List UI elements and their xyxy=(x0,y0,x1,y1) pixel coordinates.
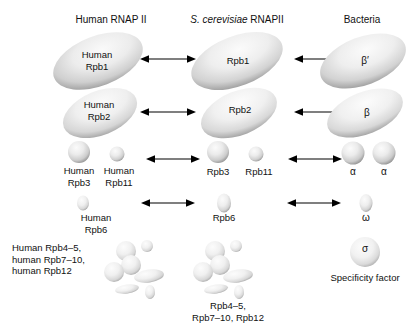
shape-human-rpb11 xyxy=(108,145,126,163)
arrow-human-yeast-rpb3 xyxy=(146,152,200,170)
shape-label-human-rpb3: Human Rpb3 xyxy=(64,165,95,188)
shape-bacteria-omega xyxy=(357,192,375,214)
shape-label-yeast-rpb2: Rpb2 xyxy=(229,104,252,116)
column-header-bacteria-text: Bacteria xyxy=(344,14,381,25)
column-header-human: Human RNAP II xyxy=(76,14,147,25)
shape-cluster-human-small-subunits xyxy=(100,238,178,306)
shape-label-yeast-rpb11: Rpb11 xyxy=(245,166,272,178)
shape-label-bacteria-alpha-1: α xyxy=(350,166,356,178)
shape-human-rpb6 xyxy=(75,194,91,212)
shape-label-human-rpb1: Human Rpb1 xyxy=(82,49,113,72)
shape-bacteria-alpha-1 xyxy=(340,140,366,166)
shape-label-yeast-rpb1: Rpb1 xyxy=(227,55,250,67)
column-header-yeast: S. cerevisiae RNAPII xyxy=(190,14,283,25)
shape-label-yeast-rpb6: Rpb6 xyxy=(213,212,236,224)
column-header-human-text: Human RNAP II xyxy=(76,14,147,25)
arrow-human-yeast-rpb2 xyxy=(140,105,196,123)
shape-label-human-rpb6: Human Rpb6 xyxy=(81,212,112,235)
shape-label-human-rpb2: Human Rpb2 xyxy=(84,99,115,122)
shape-yeast-rpb11 xyxy=(247,145,265,163)
shape-label-human-rpb11: Human Rpb11 xyxy=(104,165,135,188)
figure-canvas: Human RNAP II S. cerevisiae RNAPII Bacte… xyxy=(0,0,413,336)
arrow-yeast-bacteria-omega xyxy=(287,196,341,214)
shape-label-bacteria-omega: ω xyxy=(362,212,370,224)
shape-yeast-rpb3 xyxy=(205,139,231,165)
shape-label-bacteria-beta-prime: β′ xyxy=(361,55,369,67)
shape-label-bacteria-alpha-2: α xyxy=(381,166,387,178)
column-header-bacteria: Bacteria xyxy=(344,14,381,25)
shape-cluster-yeast-small-subunits xyxy=(189,238,267,306)
shape-label-human-small-subunits: Human Rpb4–5, human Rpb7–10, human Rpb12 xyxy=(12,242,85,277)
shape-yeast-rpb6 xyxy=(215,192,233,214)
arrow-human-yeast-rpb6 xyxy=(141,196,195,214)
shape-bacteria-alpha-2 xyxy=(371,140,397,166)
shape-label-bacteria-beta: β xyxy=(364,107,370,119)
shape-label-yeast-rpb3: Rpb3 xyxy=(207,166,230,178)
column-header-yeast-rest: RNAPII xyxy=(248,14,284,25)
arrow-yeast-bacteria-alpha xyxy=(288,152,342,170)
shape-label-bacteria-sigma: σ xyxy=(362,243,368,255)
caption-specificity-factor: Specificity factor xyxy=(330,272,399,284)
column-header-yeast-species: S. cerevisiae xyxy=(190,14,247,25)
shape-human-rpb3 xyxy=(66,139,92,165)
shape-label-yeast-small-subunits: Rpb4–5, Rpb7–10, Rpb12 xyxy=(192,300,264,323)
